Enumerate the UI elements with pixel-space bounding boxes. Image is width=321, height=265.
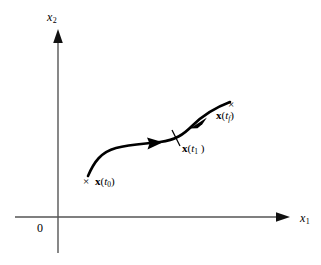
initial-point-paren-close: ) [111,175,115,187]
x-axis-arrowhead [276,212,290,222]
x-axis-label-subscript: 1 [305,217,310,226]
trajectory-curve [88,102,230,176]
initial-point-label: x(t0) [95,176,115,189]
initial-point-cross-icon: × [83,176,89,187]
state-space-trajectory-figure: x2 x1 0 × x(t0) x(t1 ) × x(tf) [0,0,321,265]
origin-label: 0 [37,222,43,234]
final-point-paren-close: ) [230,109,234,121]
final-point-label: x(tf) [216,110,234,123]
x-axis-label: x1 [300,212,310,226]
y-axis-label: x2 [47,11,57,25]
y-axis-arrowhead [53,29,63,43]
intermediate-point-label: x(t1 ) [182,143,204,156]
y-axis-label-subscript: 2 [52,16,57,25]
intermediate-point-paren-close: ) [198,142,204,154]
figure-canvas [0,0,321,265]
